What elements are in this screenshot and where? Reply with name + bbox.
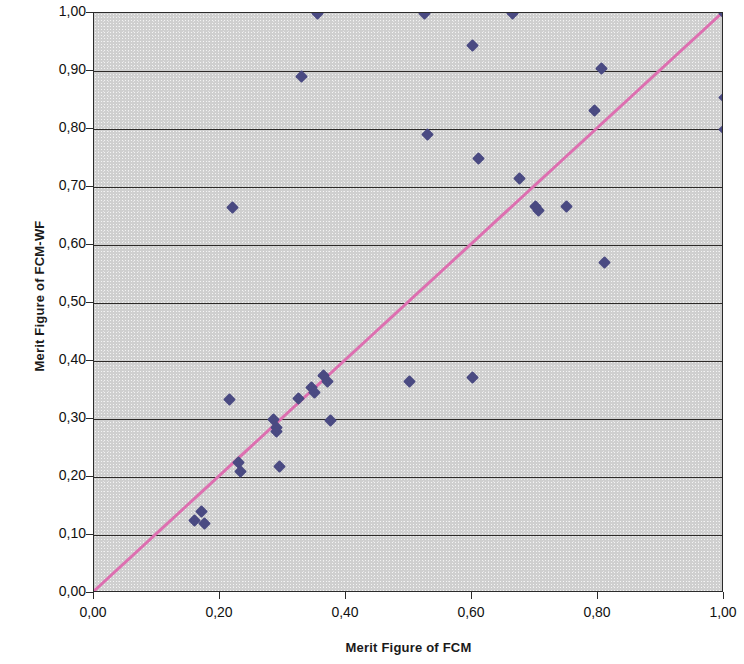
y-axis-tick-label: 0,40 (30, 351, 86, 367)
y-axis-tick-labels: 0,000,100,200,300,400,500,600,700,800,90… (22, 0, 86, 664)
gridline (94, 303, 722, 304)
gridline (94, 361, 722, 362)
y-axis-tickmark (86, 534, 93, 535)
data-point (418, 12, 431, 19)
data-point (560, 200, 573, 213)
data-point (507, 12, 520, 19)
data-point (718, 91, 723, 104)
x-axis-tickmark (345, 592, 346, 599)
y-axis-tick-label: 0,60 (30, 235, 86, 251)
data-point (223, 393, 236, 406)
y-axis-tickmark (86, 302, 93, 303)
data-point (311, 12, 324, 19)
gridline (94, 477, 722, 478)
data-point (226, 201, 239, 214)
x-axis-tick-labels: 0,000,200,400,600,801,00 (0, 604, 744, 628)
y-axis-tickmark (86, 244, 93, 245)
gridline (94, 71, 722, 72)
trendline-segment (94, 13, 722, 591)
y-axis-tick-label: 1,00 (30, 3, 86, 19)
data-point (466, 371, 479, 384)
y-axis-tickmark (86, 360, 93, 361)
data-point (422, 128, 435, 141)
data-point (718, 123, 723, 136)
y-axis-tickmark (86, 128, 93, 129)
y-axis-tick-label: 0,30 (30, 409, 86, 425)
data-point (718, 12, 723, 19)
y-axis-tick-label: 0,00 (30, 583, 86, 599)
y-axis-tickmark (86, 476, 93, 477)
y-axis-tickmark (86, 592, 93, 593)
x-axis-tick-label: 0,60 (436, 604, 506, 620)
y-axis-tickmark (86, 186, 93, 187)
x-axis-tick-label: 1,00 (688, 604, 744, 620)
data-point (273, 460, 286, 473)
scatter-chart-figure: Merit Figure of FCM-WF 0,000,100,200,300… (0, 0, 744, 664)
data-point (598, 256, 611, 269)
x-axis-tick-label: 0,80 (562, 604, 632, 620)
x-axis-tickmark (723, 592, 724, 599)
data-point (588, 104, 601, 117)
x-axis-tickmark (93, 592, 94, 599)
y-axis-tick-label: 0,20 (30, 467, 86, 483)
y-axis-tick-label: 0,70 (30, 177, 86, 193)
data-point (292, 392, 305, 405)
y-axis-tickmark (86, 12, 93, 13)
gridline (94, 245, 722, 246)
y-axis-tick-label: 0,50 (30, 293, 86, 309)
data-point (324, 414, 337, 427)
x-axis-tickmark (471, 592, 472, 599)
x-axis-tickmark (597, 592, 598, 599)
y-axis-tick-label: 0,10 (30, 525, 86, 541)
x-axis-tick-label: 0,20 (184, 604, 254, 620)
x-axis-tickmark (219, 592, 220, 599)
data-point (466, 39, 479, 52)
data-point (403, 375, 416, 388)
data-point (513, 172, 526, 185)
x-axis-tick-label: 0,00 (58, 604, 128, 620)
gridline (94, 187, 722, 188)
plot-area (93, 12, 723, 592)
gridline (94, 419, 722, 420)
trendline (94, 13, 722, 591)
gridline (94, 535, 722, 536)
x-axis-tick-label: 0,40 (310, 604, 380, 620)
y-axis-tickmark (86, 70, 93, 71)
y-axis-tick-label: 0,80 (30, 119, 86, 135)
data-point (595, 62, 608, 75)
y-axis-tick-label: 0,90 (30, 61, 86, 77)
data-point (472, 152, 485, 165)
x-axis-title: Merit Figure of FCM (93, 640, 724, 655)
y-axis-tickmark (86, 418, 93, 419)
gridline (94, 129, 722, 130)
data-point (296, 70, 309, 83)
